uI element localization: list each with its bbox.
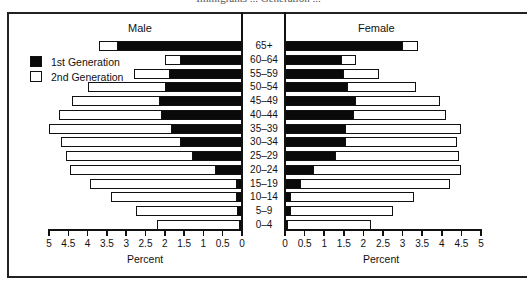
male-bar-1st-generation — [236, 192, 242, 202]
female-panel-title: Female — [358, 22, 395, 34]
male-bar-2nd-generation — [90, 179, 242, 189]
figure-caption-cropped: Immigrants ... Generation ... — [0, 0, 517, 4]
male-tick-mark — [145, 229, 147, 236]
male-tick-mark — [183, 229, 185, 236]
age-group-label: 35–39 — [244, 123, 284, 135]
male-bar-2nd-generation — [111, 192, 242, 202]
male-bar-1st-generation — [237, 206, 242, 216]
male-bar-2nd-generation — [136, 206, 242, 216]
male-bar-1st-generation — [159, 96, 242, 106]
female-bar-1st-generation — [285, 137, 346, 147]
female-tick-mark — [480, 229, 482, 236]
female-tick-mark — [402, 229, 404, 236]
legend-label: 2nd Generation — [51, 71, 123, 83]
female-tick-mark — [461, 229, 463, 236]
male-panel-title: Male — [128, 22, 152, 34]
female-bar-1st-generation — [285, 179, 301, 189]
age-group-label: 45–49 — [244, 95, 284, 107]
male-tick-mark — [87, 229, 89, 236]
female-bar-1st-generation — [285, 69, 344, 79]
female-bar-1st-generation — [285, 165, 314, 175]
male-bar-1st-generation — [192, 151, 242, 161]
age-group-label: 40–44 — [244, 109, 284, 121]
female-bar-1st-generation — [285, 192, 291, 202]
female-bar-2nd-generation — [285, 192, 414, 202]
male-tick-mark — [222, 229, 224, 236]
female-bar-2nd-generation — [285, 206, 393, 216]
male-tick-label: 5 — [37, 238, 61, 249]
female-tick-mark — [323, 229, 325, 236]
male-bar-1st-generation — [215, 165, 242, 175]
female-bar-1st-generation — [285, 124, 346, 134]
male-bar-1st-generation — [236, 179, 242, 189]
male-tick-mark — [241, 229, 243, 236]
age-group-label: 50–54 — [244, 81, 284, 93]
female-bar-1st-generation — [285, 41, 403, 51]
legend-swatch-black-icon — [30, 56, 42, 67]
legend-label: 1st Generation — [51, 56, 120, 68]
female-tick-mark — [284, 229, 286, 236]
legend-item-2nd-generation: 2nd Generation — [30, 71, 123, 83]
female-bar-2nd-generation — [285, 179, 450, 189]
age-group-label: 25–29 — [244, 150, 284, 162]
female-tick-mark — [363, 229, 365, 236]
male-bar-1st-generation — [165, 82, 242, 92]
female-bar-1st-generation — [285, 151, 336, 161]
age-group-label: 0–4 — [244, 219, 284, 231]
male-bar-1st-generation — [169, 69, 242, 79]
male-tick-mark — [48, 229, 50, 236]
female-bar-1st-generation — [285, 82, 348, 92]
female-tick-mark — [421, 229, 423, 236]
age-group-label: 10–14 — [244, 191, 284, 203]
female-tick-label: 5 — [469, 238, 493, 249]
male-tick-mark — [125, 229, 127, 236]
male-tick-mark — [68, 229, 70, 236]
female-tick-mark — [304, 229, 306, 236]
legend-swatch-white-icon — [30, 71, 42, 82]
female-x-axis-label: Percent — [363, 253, 399, 265]
female-bar-1st-generation — [285, 110, 354, 120]
male-bar-1st-generation — [171, 124, 242, 134]
female-bar-1st-generation — [285, 55, 342, 65]
male-tick-mark — [106, 229, 108, 236]
age-group-label: 20–24 — [244, 164, 284, 176]
age-group-label: 65+ — [244, 40, 284, 52]
female-tick-mark — [382, 229, 384, 236]
male-tick-mark — [164, 229, 166, 236]
male-x-axis-label: Percent — [127, 253, 163, 265]
legend-item-1st-generation: 1st Generation — [30, 56, 120, 68]
male-tick-mark — [203, 229, 205, 236]
male-bar-1st-generation — [161, 110, 242, 120]
age-group-label: 55–59 — [244, 68, 284, 80]
age-group-label: 15–19 — [244, 178, 284, 190]
female-bar-1st-generation — [285, 96, 356, 106]
age-group-label: 60–64 — [244, 54, 284, 66]
age-group-label: 30–34 — [244, 136, 284, 148]
female-tick-mark — [441, 229, 443, 236]
female-tick-mark — [343, 229, 345, 236]
male-bar-1st-generation — [117, 41, 242, 51]
female-bar-1st-generation — [285, 206, 291, 216]
age-group-label: 5–9 — [244, 205, 284, 217]
male-bar-1st-generation — [180, 137, 242, 147]
male-bar-1st-generation — [180, 55, 242, 65]
